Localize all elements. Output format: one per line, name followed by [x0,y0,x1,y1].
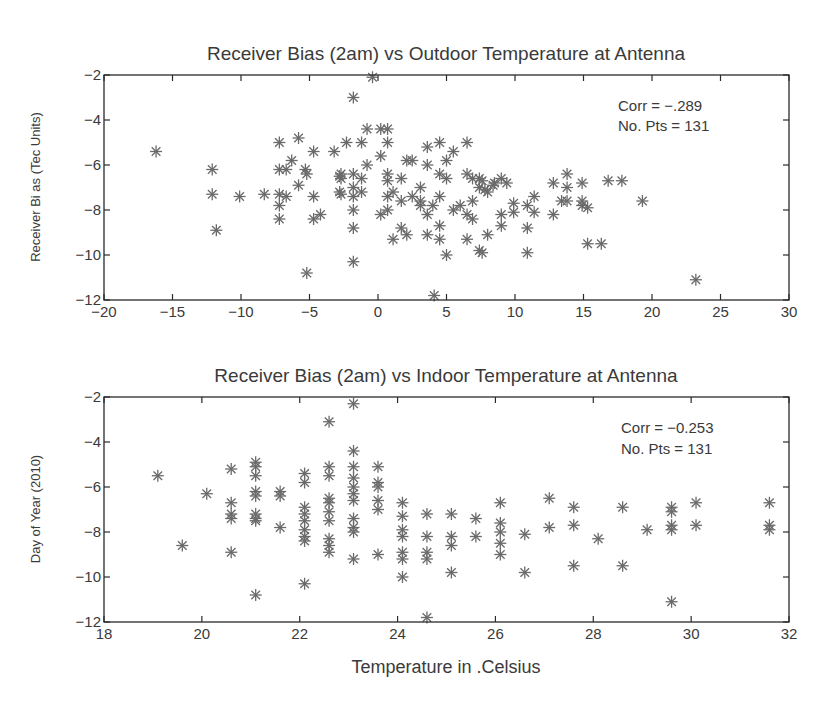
asterisk-marker [347,92,359,104]
plot-title: Receiver Bias (2am) vs Outdoor Temperatu… [207,43,685,64]
asterisk-marker [494,526,506,538]
asterisk-marker [421,553,433,565]
asterisk-marker [421,159,433,171]
asterisk-marker [479,184,491,196]
x-tick-label: −5 [301,303,318,320]
x-tick-label: 25 [712,303,729,320]
asterisk-marker [666,524,678,536]
x-tick-label: 0 [374,303,382,320]
asterisk-marker [476,247,488,259]
asterisk-marker [299,578,311,590]
asterisk-marker [176,540,188,552]
asterisk-marker [301,168,313,180]
asterisk-marker [568,560,580,572]
y-axis-label: Day of Year (2010) [28,455,43,563]
asterisk-marker [225,463,237,475]
asterisk-marker [616,175,628,187]
y-tick-label: −2 [84,66,101,83]
asterisk-marker [494,537,506,549]
asterisk-marker [348,445,360,457]
asterisk-marker [414,182,426,194]
indoor-temperature-scatter-plot: Receiver Bias (2am) vs Indoor Temperatur… [28,365,797,677]
x-tick-label: 28 [585,625,602,642]
asterisk-marker [495,209,507,221]
asterisk-marker [547,209,559,221]
asterisk-marker [206,188,218,200]
asterisk-marker [582,238,594,250]
asterisk-marker [582,202,594,214]
asterisk-marker [301,267,313,279]
asterisk-marker [434,191,446,203]
y-tick-label: −8 [84,523,101,540]
asterisk-marker [273,213,285,225]
asterisk-marker [617,560,629,572]
asterisk-marker [372,549,384,561]
x-tick-label: 24 [389,625,406,642]
asterisk-marker [427,200,439,212]
asterisk-marker [348,526,360,538]
asterisk-marker [206,164,218,176]
x-axis-label: Temperature in .Celsius [351,657,540,677]
asterisk-marker [396,497,408,509]
plot-title: Receiver Bias (2am) vs Indoor Temperatur… [214,365,678,386]
asterisk-marker [519,528,531,540]
asterisk-marker [414,200,426,212]
asterisk-marker [495,220,507,232]
asterisk-marker [382,191,394,203]
asterisk-marker [348,461,360,473]
y-tick-label: −12 [76,291,101,308]
asterisk-marker [421,508,433,520]
asterisk-marker [375,150,387,162]
asterisk-marker [501,177,513,189]
asterisk-marker [561,168,573,180]
asterisk-marker [250,490,262,502]
asterisk-marker [334,170,346,182]
asterisk-marker [547,177,559,189]
asterisk-marker [250,470,262,482]
asterisk-marker [576,177,588,189]
asterisk-marker [395,222,407,234]
x-tick-label: 32 [781,625,798,642]
asterisk-marker [494,549,506,561]
asterisk-marker [293,179,305,191]
asterisk-marker [406,155,418,167]
asterisk-marker [445,540,457,552]
asterisk-marker [273,200,285,212]
asterisk-marker [467,195,479,207]
y-tick-label: −8 [84,201,101,218]
asterisk-marker [372,461,384,473]
asterisk-marker [356,173,368,185]
asterisk-marker [395,195,407,207]
asterisk-marker [568,501,580,513]
asterisk-marker [323,515,335,527]
asterisk-marker [441,249,453,261]
asterisk-marker [666,506,678,518]
asterisk-marker [348,495,360,507]
x-tick-label: 10 [507,303,524,320]
asterisk-marker [280,164,292,176]
asterisk-marker [421,229,433,241]
asterisk-marker [396,553,408,565]
asterisk-marker [592,533,604,545]
x-tick-label: −10 [228,303,253,320]
asterisk-marker [273,137,285,149]
asterisk-marker [225,546,237,558]
y-tick-label: −6 [84,156,101,173]
asterisk-marker [201,488,213,500]
y-tick-label: −6 [84,478,101,495]
asterisk-marker [568,519,580,531]
asterisk-marker [274,490,286,502]
asterisk-marker [334,186,346,198]
asterisk-marker [434,137,446,149]
asterisk-marker [467,213,479,225]
asterisk-marker [152,470,164,482]
point-count-annotation: No. Pts = 131 [618,117,709,134]
asterisk-marker [476,175,488,187]
y-tick-label: −10 [76,568,101,585]
asterisk-marker [258,188,270,200]
asterisk-marker [250,515,262,527]
asterisk-marker [396,571,408,583]
asterisk-marker [595,238,607,250]
asterisk-marker [234,191,246,203]
y-tick-label: −4 [84,111,101,128]
